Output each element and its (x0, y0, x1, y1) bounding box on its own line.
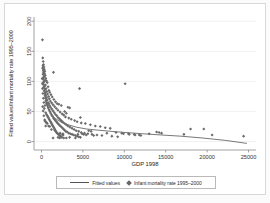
figure-container: 050100150200 0500010000150002000025000 G… (0, 0, 270, 203)
legend-entry-infant-mortality: Infant mortality rate 1995–2000 (127, 180, 202, 186)
x-tick-label: 25000 (241, 154, 257, 160)
legend-label-infant-mortality: Infant mortality rate 1995–2000 (134, 180, 202, 186)
scatter-plot: 050100150200 0500010000150002000025000 G… (0, 0, 270, 203)
y-tick-label: 50 (26, 108, 32, 114)
diamond-marker-icon (126, 180, 132, 186)
chart-legend: Fitted values Infant mortality rate 1995… (56, 176, 216, 189)
y-tick-label: 200 (26, 17, 32, 26)
x-tick-label: 15000 (158, 154, 174, 160)
legend-entry-fitted-values: Fitted values (70, 180, 120, 186)
y-axis-ticks: 050100150200 (26, 17, 34, 144)
x-tick-label: 10000 (117, 154, 133, 160)
plot-area (34, 17, 256, 150)
x-tick-label: 5000 (77, 154, 89, 160)
plot-background (34, 17, 256, 150)
line-swatch-icon (70, 182, 89, 183)
x-tick-label: 0 (40, 154, 43, 160)
y-tick-label: 0 (26, 140, 32, 143)
y-tick-label: 150 (26, 47, 32, 56)
x-tick-label: 20000 (199, 154, 215, 160)
y-axis-title: Fitted values/Infant mortality rate 1995… (8, 30, 14, 137)
x-axis-ticks: 0500010000150002000025000 (40, 150, 256, 160)
x-axis-title: GDP 1998 (132, 161, 159, 167)
legend-label-fitted-values: Fitted values (92, 180, 120, 186)
y-tick-label: 100 (26, 77, 32, 86)
